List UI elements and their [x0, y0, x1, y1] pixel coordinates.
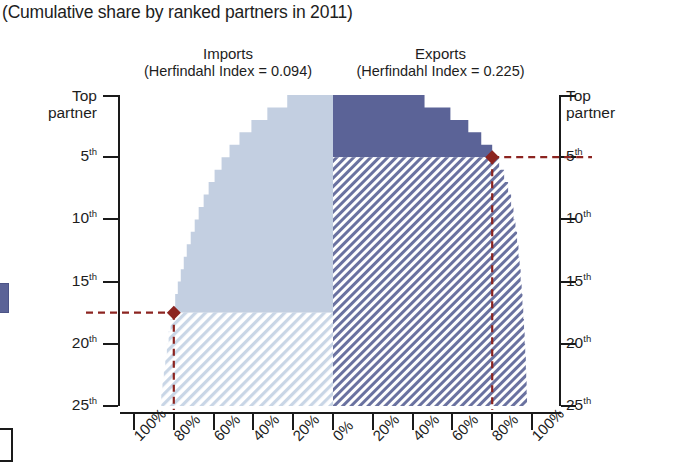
plot-area: [134, 95, 532, 406]
plot-svg: [134, 95, 532, 406]
imports-panel-title: Imports: [123, 46, 333, 63]
exports-panel-heading: Exports (Herfindahl Index = 0.225): [333, 46, 548, 79]
y-tick-left-15: [103, 281, 118, 283]
y-axis-label-right-10: 10th: [566, 209, 591, 227]
y-tick-suffix: th: [583, 271, 591, 282]
y-tick-suffix: th: [89, 146, 97, 157]
exports-herfindahl-label: (Herfindahl Index = 0.225): [333, 63, 548, 79]
imports-panel-heading: Imports (Herfindahl Index = 0.094): [123, 46, 333, 79]
y-axis-label-right-5: 5th: [566, 147, 583, 165]
left-partner-word: partner: [48, 104, 97, 121]
right-top-partner-label: Top partner: [566, 88, 615, 121]
y-tick-suffix: th: [575, 146, 583, 157]
y-tick-suffix: th: [89, 333, 97, 344]
axis-corner-stub: [0, 428, 13, 462]
y-axis-label-right-25: 25th: [566, 396, 591, 414]
y-axis-label-left-20: 20th: [72, 334, 97, 352]
y-tick-value: 20: [72, 334, 89, 351]
y-tick-suffix: th: [583, 208, 591, 219]
y-tick-value: 20: [566, 334, 583, 351]
y-tick-value: 15: [72, 272, 89, 289]
y-tick-suffix: th: [583, 395, 591, 406]
y-axis-label-right-15: 15th: [566, 272, 591, 290]
y-axis-label-right-20: 20th: [566, 334, 591, 352]
y-tick-value: 10: [72, 210, 89, 227]
x-axis-line: [120, 412, 561, 414]
y-tick-value: 25: [72, 396, 89, 413]
right-top-word: Top: [566, 87, 591, 104]
y-axis-label-left-5: 5th: [80, 147, 97, 165]
left-top-word: Top: [72, 87, 97, 104]
left-top-partner-label: Top partner: [48, 88, 97, 121]
y-tick-suffix: th: [583, 333, 591, 344]
y-axis-label-left-15: 15th: [72, 272, 97, 290]
y-tick-value: 5: [80, 147, 89, 164]
y-tick-suffix: th: [89, 271, 97, 282]
y-tick-left-25: [103, 405, 118, 407]
right-y-axis-line: [559, 95, 561, 406]
series-layer: [161, 95, 527, 406]
legend-color-chip: [0, 283, 9, 313]
y-tick-left-20: [103, 343, 118, 345]
x-axis-label-left-100%: 100%: [130, 405, 169, 444]
y-tick-suffix: th: [89, 208, 97, 219]
y-tick-value: 25: [566, 396, 583, 413]
imports-herfindahl-label: (Herfindahl Index = 0.094): [123, 63, 333, 79]
chart-subtitle: (Cumulative share by ranked partners in …: [2, 2, 353, 23]
y-axis-label-left-25: 25th: [72, 396, 97, 414]
y-axis-label-left-10: 10th: [72, 209, 97, 227]
y-tick-left-5: [103, 156, 118, 158]
y-tick-suffix: th: [89, 395, 97, 406]
exports-panel-title: Exports: [333, 46, 548, 63]
y-tick-left-10: [103, 218, 118, 220]
y-tick-left-top-partner: [103, 95, 118, 97]
x-axis-label-right-100%: 100%: [528, 405, 567, 444]
y-tick-value: 5: [566, 147, 575, 164]
y-tick-value: 10: [566, 210, 583, 227]
left-y-axis-line: [118, 95, 120, 406]
chart-canvas: (Cumulative share by ranked partners in …: [0, 0, 678, 469]
right-partner-word: partner: [566, 104, 615, 121]
y-tick-value: 15: [566, 272, 583, 289]
